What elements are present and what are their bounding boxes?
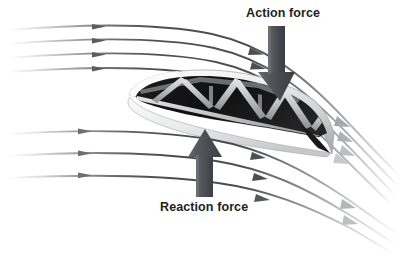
- reaction-arrow-highlight: [196, 155, 199, 197]
- truss-post: [258, 94, 262, 114]
- action-arrow-highlight: [268, 26, 271, 74]
- truss-post: [209, 86, 213, 104]
- action-force-label: Action force: [246, 6, 320, 20]
- airfoil-force-diagram: [0, 0, 412, 256]
- streamline-arrowhead: [342, 215, 358, 225]
- streamline-arrowhead: [78, 173, 92, 179]
- streamline-arrowhead: [78, 129, 92, 135]
- streamline-arrowhead: [78, 151, 92, 157]
- streamline-arrowhead: [92, 66, 106, 72]
- diagram-canvas: Action force Reaction force: [0, 0, 412, 256]
- reaction-force-label: Reaction force: [160, 200, 248, 214]
- streamline-arrowhead: [254, 194, 270, 202]
